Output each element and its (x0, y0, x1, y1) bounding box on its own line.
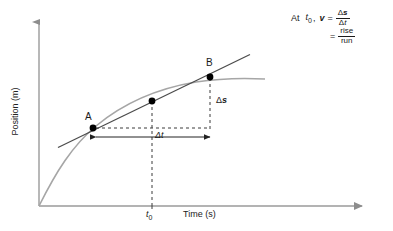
equation-line-2: = rise run (330, 26, 355, 46)
fraction-numerator-rise: rise (338, 27, 355, 35)
fraction-denominator-run: run (338, 36, 355, 45)
delta-s-label: Δs (216, 96, 227, 105)
equation-t0: t0 (306, 12, 312, 24)
delta-s-var: s (222, 95, 227, 105)
fraction-num-var: s (343, 8, 347, 17)
point-t0-marker (149, 98, 156, 105)
velocity-equation: At t0 , v = Δs Δt = rise run (291, 8, 355, 46)
equation-t-sub: 0 (308, 17, 312, 24)
equation-line-1: At t0 , v = Δs Δt (291, 8, 350, 28)
point-a-marker (90, 125, 97, 132)
position-time-graph-figure: Position (m) Time (s) t0 A B Δt Δs At t0… (0, 0, 393, 231)
equation-fraction-rise-run: rise run (338, 27, 355, 45)
y-axis-label-text: Position (m) (11, 87, 20, 135)
equation-velocity-symbol: v (319, 13, 324, 23)
equation-equals-1: = (327, 13, 332, 23)
fraction-numerator-ds: Δs (336, 9, 350, 17)
t0-tick-sub: 0 (149, 214, 153, 221)
x-axis-tick-label-t0: t0 (146, 210, 152, 221)
point-a-label: A (85, 112, 92, 122)
delta-t-label: Δt (155, 131, 164, 140)
equation-fraction-ds-dt: Δs Δt (336, 9, 350, 27)
point-b-label: B (206, 58, 213, 68)
equation-at-word: At (291, 13, 300, 23)
y-axis-label: Position (m) (8, 61, 22, 161)
equation-comma: , (313, 13, 316, 23)
point-b-marker (207, 74, 214, 81)
equation-equals-2: = (330, 31, 335, 41)
x-axis-label: Time (s) (183, 210, 216, 219)
